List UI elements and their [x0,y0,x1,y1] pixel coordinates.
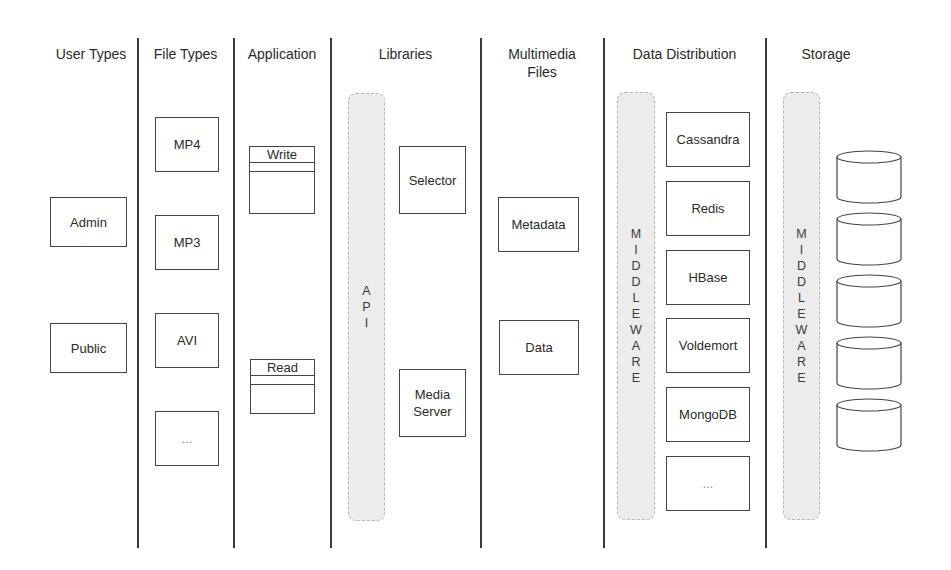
user-type-admin: Admin [50,197,127,247]
middleware-letter: W [630,322,642,338]
middleware-letter: E [632,370,640,386]
api-letter: A [362,283,370,299]
middleware-letter: D [631,274,640,290]
middleware-letter: I [800,242,803,258]
column-title-multimedia-line2: Files [481,63,603,81]
database-voldemort: Voldemort [666,318,750,373]
application-read-separator [251,376,314,385]
application-write-label: Write [250,147,314,163]
application-write: Write [249,146,315,214]
library-media-server: Media Server [399,369,466,437]
middleware-letter: R [631,354,640,370]
divider-2 [233,38,235,548]
file-type-more: ... [155,411,219,466]
column-title-file-types: File Types [138,45,233,63]
column-title-data-distribution: Data Distribution [604,45,765,63]
storage-disk-icon [836,336,902,390]
divider-4 [480,38,482,548]
column-title-multimedia-line1: Multimedia [481,45,603,63]
file-type-mp3: MP3 [155,215,219,270]
column-title-user-types: User Types [45,45,137,63]
storage-middleware-bar: M I D D L E W A R E [783,92,820,520]
storage-disk-icon [836,212,902,266]
database-mongodb: MongoDB [666,387,750,442]
api-letter: P [362,299,370,315]
media-server-line1: Media [413,386,451,403]
divider-1 [137,38,139,548]
database-redis: Redis [666,181,750,236]
media-server-line2: Server [413,403,451,420]
middleware-letter: E [797,306,805,322]
application-read: Read [250,359,315,414]
divider-6 [765,38,767,548]
library-selector: Selector [399,146,466,214]
file-type-mp4: MP4 [155,117,219,172]
application-read-label: Read [251,360,314,376]
middleware-letter: D [797,258,806,274]
middleware-letter: E [632,306,640,322]
api-bar-label: A P I [362,283,370,331]
divider-5 [603,38,605,548]
user-type-public: Public [50,323,127,373]
middleware-letter: E [797,370,805,386]
database-more: ... [666,456,750,511]
multimedia-data: Data [499,320,579,375]
application-write-separator [250,163,314,172]
middleware-letter: I [634,242,637,258]
storage-disk-icon [836,398,902,452]
middleware-letter: L [798,290,805,306]
column-title-storage: Storage [766,45,886,63]
column-title-multimedia-files: Multimedia Files [481,45,603,81]
api-bar: A P I [348,93,385,521]
middleware-letter: D [797,274,806,290]
storage-disk-icon [836,150,902,204]
middleware-letter: L [633,290,640,306]
column-title-application: Application [234,45,330,63]
storage-middleware-label: M I D D L E W A R E [796,226,808,386]
storage-disk-icon [836,274,902,328]
middleware-label: M I D D L E W A R E [630,226,642,386]
middleware-letter: A [632,338,640,354]
divider-3 [330,38,332,548]
middleware-letter: A [797,338,805,354]
multimedia-metadata: Metadata [498,197,579,252]
middleware-letter: M [796,226,806,242]
middleware-letter: W [796,322,808,338]
middleware-letter: M [631,226,641,242]
middleware-letter: R [797,354,806,370]
database-hbase: HBase [666,250,750,305]
data-distribution-middleware-bar: M I D D L E W A R E [617,92,655,520]
file-type-avi: AVI [155,313,219,368]
database-cassandra: Cassandra [666,112,750,167]
column-title-libraries: Libraries [331,45,480,63]
middleware-letter: D [631,258,640,274]
api-letter: I [365,315,368,331]
